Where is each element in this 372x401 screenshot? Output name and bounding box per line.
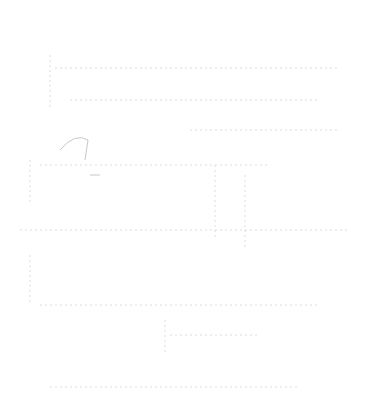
diagram-lines	[0, 0, 372, 401]
diagram-canvas	[0, 0, 372, 401]
